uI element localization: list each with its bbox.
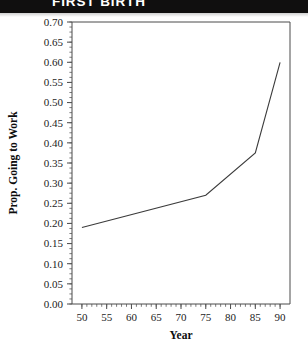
y-axis-title: Prop. Going to Work xyxy=(7,111,20,215)
data-series-line xyxy=(82,62,280,227)
x-tick-label: 50 xyxy=(76,311,88,323)
x-tick-label: 70 xyxy=(176,311,188,323)
y-tick-label: 0.40 xyxy=(44,137,64,149)
y-tick-label: 0.60 xyxy=(44,56,64,68)
y-tick-label: 0.15 xyxy=(44,237,64,249)
page-header-title: FIRST BIRTH xyxy=(52,0,146,9)
y-tick-label: 0.05 xyxy=(44,278,64,290)
chart-page: FIRST BIRTH 0.000.050.100.150.200.250.30… xyxy=(0,0,308,347)
x-tick-label: 90 xyxy=(275,311,287,323)
y-tick-label: 0.55 xyxy=(44,76,64,88)
plot-frame xyxy=(72,22,290,304)
y-tick-label: 0.35 xyxy=(44,157,64,169)
x-tick-label: 80 xyxy=(225,311,237,323)
y-tick-label: 0.65 xyxy=(44,36,64,48)
x-tick-label: 75 xyxy=(200,311,212,323)
x-tick-label: 55 xyxy=(101,311,113,323)
x-tick-label: 85 xyxy=(250,311,262,323)
page-header-bar: FIRST BIRTH xyxy=(0,0,308,13)
x-tick-label: 60 xyxy=(126,311,138,323)
y-tick-label: 0.50 xyxy=(44,96,64,108)
y-axis-tick-labels: 0.000.050.100.150.200.250.300.350.400.45… xyxy=(44,16,64,310)
y-tick-label: 0.10 xyxy=(44,258,64,270)
x-tick-label: 65 xyxy=(151,311,163,323)
chart-figure: 0.000.050.100.150.200.250.300.350.400.45… xyxy=(0,13,308,347)
x-axis-tick-labels: 505560657075808590 xyxy=(76,311,286,323)
y-tick-label: 0.70 xyxy=(44,16,64,28)
y-tick-label: 0.25 xyxy=(44,197,64,209)
y-tick-label: 0.45 xyxy=(44,117,64,129)
y-tick-label: 0.30 xyxy=(44,177,64,189)
line-chart: 0.000.050.100.150.200.250.300.350.400.45… xyxy=(0,13,308,347)
y-tick-label: 0.20 xyxy=(44,217,64,229)
y-tick-label: 0.00 xyxy=(44,298,64,310)
x-axis-title: Year xyxy=(170,329,193,341)
